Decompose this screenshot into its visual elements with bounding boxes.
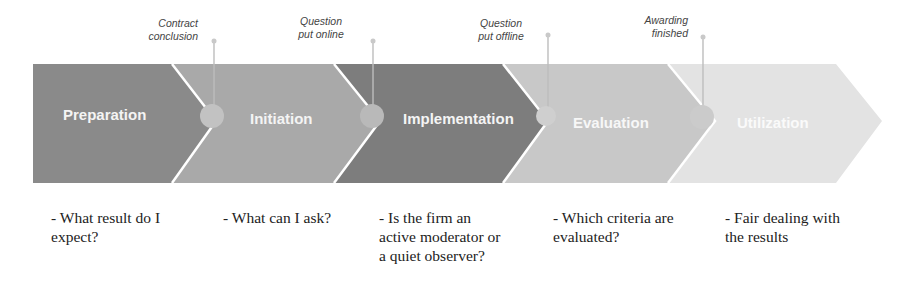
question-initiation: - What can I ask? (223, 208, 331, 227)
phase-label-evaluation: Evaluation (573, 114, 649, 131)
phase-label-utilization: Utilization (737, 114, 809, 131)
milestone-marker-awarding-finished (690, 105, 714, 129)
question-implementation: - Is the firm an active moderator or a q… (379, 208, 500, 265)
milestone-label-awarding-finished: Awarding finished (630, 14, 688, 40)
milestone-marker-contract-conclusion (200, 104, 224, 128)
process-chevron-diagram: Preparation Initiation Implementation Ev… (0, 0, 912, 200)
phase-label-preparation: Preparation (63, 106, 146, 123)
milestone-label-question-online: Question put online (290, 15, 352, 41)
question-preparation: - What result do I expect? (51, 208, 160, 246)
milestone-marker-question-offline (536, 106, 556, 126)
milestone-marker-question-online (360, 104, 384, 128)
question-utilization: - Fair dealing with the results (725, 208, 840, 246)
milestone-label-question-offline: Question put offline (470, 17, 532, 43)
question-evaluation: - Which criteria are evaluated? (553, 208, 674, 246)
phase-label-implementation: Implementation (403, 110, 514, 127)
phase-label-initiation: Initiation (250, 110, 313, 127)
milestone-label-contract-conclusion: Contract conclusion (140, 17, 198, 43)
